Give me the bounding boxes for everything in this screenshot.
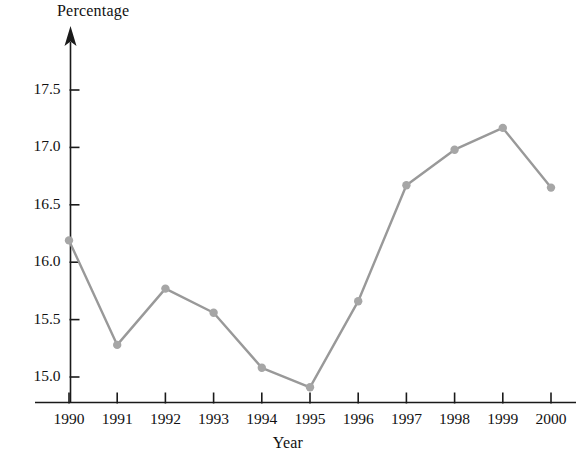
line-chart: Percentage 15.015.516.016.517.017.5 1990… [0, 0, 576, 464]
data-point-marker [161, 284, 169, 292]
x-axis-tick-label: 2000 [527, 410, 575, 428]
data-point-marker [354, 297, 362, 305]
y-axis-tick-label: 17.5 [13, 80, 61, 98]
x-axis-tick-label: 1990 [45, 410, 93, 428]
data-point-marker [547, 183, 555, 191]
data-point-marker [65, 236, 73, 244]
x-axis-tick-label: 1996 [334, 410, 382, 428]
data-point-marker [258, 364, 266, 372]
x-axis-tick-label: 1991 [93, 410, 141, 428]
y-axis-tick-label: 16.0 [13, 252, 61, 270]
y-axis-tick-label: 17.0 [13, 137, 61, 155]
x-axis-title: Year [0, 434, 576, 452]
y-axis-tick-label: 16.5 [13, 195, 61, 213]
data-series [65, 124, 555, 392]
y-axis-tick-label: 15.5 [13, 310, 61, 328]
data-point-marker [499, 124, 507, 132]
x-axis-tick-label: 1997 [382, 410, 430, 428]
chart-canvas [0, 0, 576, 464]
data-point-marker [402, 181, 410, 189]
data-point-marker [450, 146, 458, 154]
x-axis-tick-label: 1999 [479, 410, 527, 428]
x-axis-tick-label: 1994 [238, 410, 286, 428]
x-axis-tick-label: 1993 [190, 410, 238, 428]
x-axis-tick-label: 1998 [431, 410, 479, 428]
y-axis-tick-label: 15.0 [13, 367, 61, 385]
data-point-marker [306, 383, 314, 391]
x-axis-tick-label: 1995 [286, 410, 334, 428]
data-point-marker [113, 341, 121, 349]
x-axis-tick-label: 1992 [141, 410, 189, 428]
series-line [69, 128, 551, 387]
data-point-marker [209, 309, 217, 317]
